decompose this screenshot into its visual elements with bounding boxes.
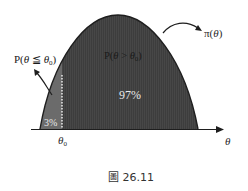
figure-caption: 圖 26.11: [108, 168, 154, 184]
curve-label-arrowhead: [195, 25, 202, 31]
theta0-tick-label: θ0: [58, 135, 67, 148]
curve-label-arrow: [163, 23, 198, 33]
right-prob-prefix: P(: [104, 50, 113, 61]
left-label-arrow: [36, 72, 52, 95]
curve-label-func: π(: [204, 27, 213, 39]
x-axis-label: θ: [225, 136, 230, 147]
left-prob-close: ): [53, 53, 57, 65]
left-prob-prefix: P(: [14, 53, 24, 65]
theta0-subscript: 0: [63, 140, 67, 148]
prior-distribution-figure: P(θ ≦ θ0) P(θ > θ0) 97% 3% π(θ) θ0 θ 圖 2…: [0, 0, 248, 191]
left-area-percent: 3%: [44, 118, 57, 128]
left-probability-label: P(θ ≦ θ0): [14, 54, 56, 67]
right-region: [40, 15, 198, 129]
curve-label: π(θ): [204, 28, 222, 39]
curve-label-close: ): [219, 27, 223, 39]
right-prob-close: ): [138, 50, 142, 61]
right-area-percent: 97%: [119, 89, 141, 101]
right-probability-label: P(θ > θ0): [104, 51, 142, 63]
right-prob-operator: >: [119, 50, 130, 61]
x-axis-arrowhead: [216, 126, 224, 133]
left-prob-operator: ≦: [29, 53, 44, 65]
